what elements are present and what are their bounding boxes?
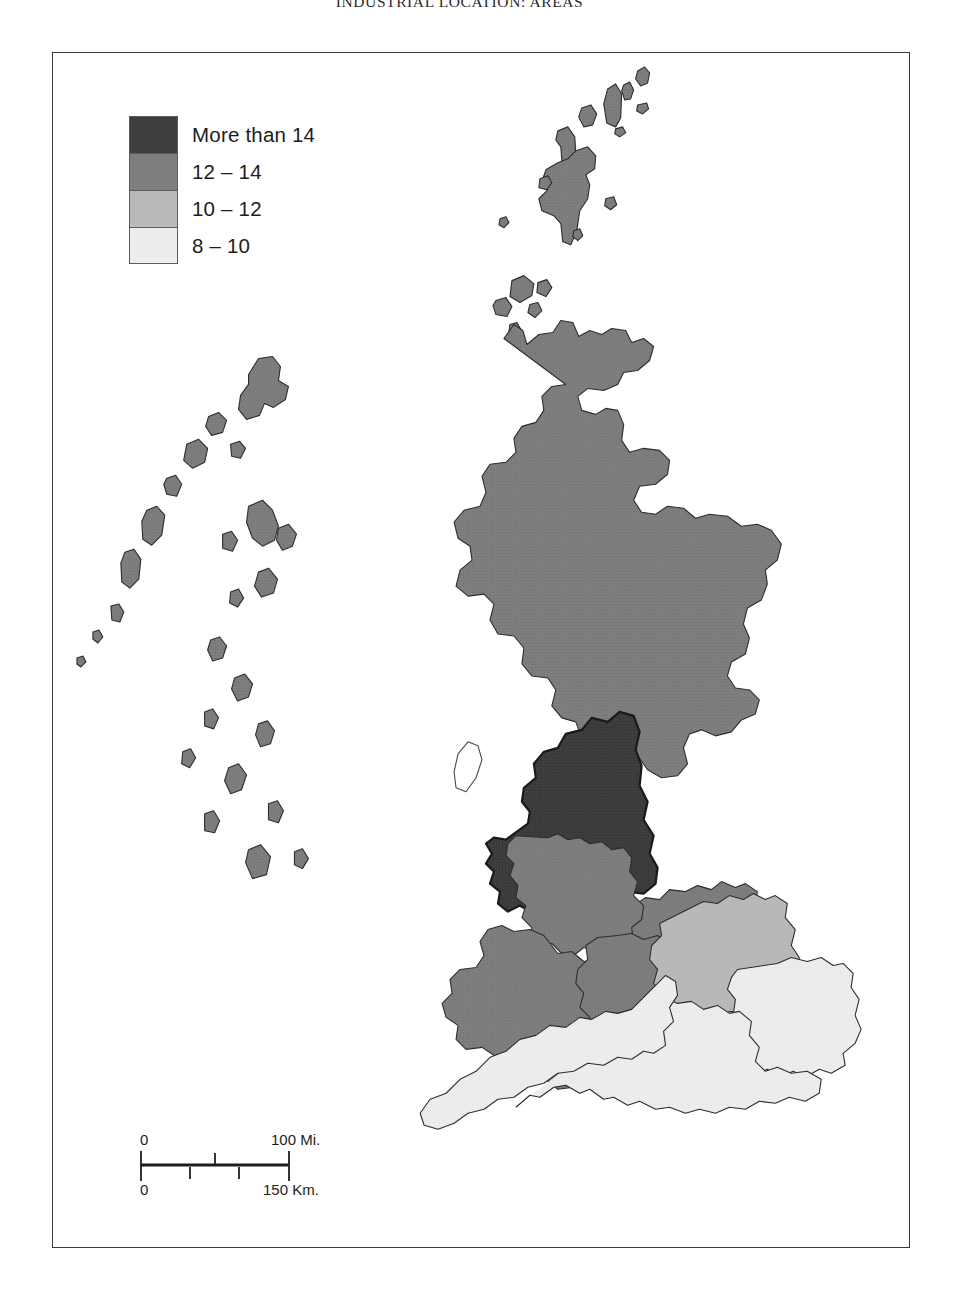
scale-bar: 0 100 Mi. 0 150 Km. <box>85 1131 345 1203</box>
legend-item[interactable]: 10 – 12 <box>129 190 359 227</box>
legend-swatch-more-than-14 <box>129 116 178 153</box>
legend-swatch-12-14 <box>129 153 178 190</box>
running-head-text: INDUSTRIAL LOCATION: AREAS <box>336 0 584 10</box>
region-inner-hebrides[interactable] <box>182 500 309 878</box>
scale-miles-end-label: 100 Mi. <box>271 1131 320 1148</box>
legend-label: 12 – 14 <box>178 153 262 190</box>
legend-label: 8 – 10 <box>178 227 250 264</box>
region-shetland-islands[interactable] <box>499 67 650 245</box>
scale-km-ticks <box>141 1165 289 1181</box>
region-scotland[interactable] <box>454 321 781 778</box>
legend-item[interactable]: More than 14 <box>129 116 359 153</box>
legend-label: 10 – 12 <box>178 190 262 227</box>
map-frame: More than 14 12 – 14 10 – 12 8 – 10 0 10… <box>52 52 910 1248</box>
legend-label: More than 14 <box>178 116 315 153</box>
scale-km-end-label: 150 Km. <box>263 1181 319 1198</box>
region-isle-of-man[interactable] <box>454 742 482 792</box>
scale-miles-start-label: 0 <box>140 1131 148 1148</box>
region-orkney-islands[interactable] <box>493 276 552 336</box>
scale-km-start-label: 0 <box>140 1181 148 1198</box>
map-legend: More than 14 12 – 14 10 – 12 8 – 10 <box>129 116 359 264</box>
legend-item[interactable]: 12 – 14 <box>129 153 359 190</box>
legend-item[interactable]: 8 – 10 <box>129 227 359 264</box>
legend-swatch-8-10 <box>129 227 178 264</box>
legend-swatch-10-12 <box>129 190 178 227</box>
scale-miles-ticks <box>141 1151 289 1165</box>
page-header: INDUSTRIAL LOCATION: AREAS <box>0 0 961 15</box>
